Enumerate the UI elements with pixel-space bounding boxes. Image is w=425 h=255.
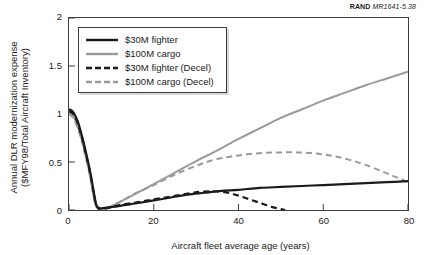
x-tick-label: 0	[53, 216, 83, 226]
x-tick-label: 20	[138, 216, 168, 226]
x-tick-label: 40	[224, 216, 254, 226]
y-tick-label: 0.5	[36, 158, 62, 168]
series-line	[69, 111, 285, 210]
legend-swatch-icon	[86, 35, 118, 45]
y-tick-label: 0	[36, 206, 62, 216]
legend-item[interactable]: $100M cargo	[79, 47, 226, 61]
y-tick-label: 2	[36, 12, 62, 22]
series-line	[69, 109, 408, 208]
legend-swatch-icon	[86, 49, 118, 59]
legend-swatch-icon	[86, 77, 118, 87]
y-axis-title-line2: ($MFY98/Total Aircraft Inventory)	[19, 48, 31, 187]
y-tick-label: 1.5	[36, 61, 62, 71]
legend-item[interactable]: $30M fighter	[79, 33, 226, 47]
x-tick-label: 80	[394, 216, 424, 226]
rand-brand-label: RAND	[350, 3, 371, 10]
y-tick-label: 1	[36, 109, 62, 119]
y-axis-title: Annual DLR modernization expense ($MFY98…	[2, 10, 36, 225]
legend: $30M fighter$100M cargo$30M fighter (Dec…	[78, 27, 227, 93]
figure-reference-label: MR1641-5.38	[372, 3, 416, 10]
x-axis-title: Aircraft fleet average age (years)	[64, 240, 417, 251]
figure-container: RAND MR1641-5.38 Annual DLR modernizatio…	[0, 0, 425, 255]
legend-item[interactable]: $30M fighter (Decel)	[79, 61, 226, 75]
source-credit: RAND MR1641-5.38	[350, 3, 416, 10]
y-axis-title-line1: Annual DLR modernization expense	[8, 41, 20, 193]
x-tick-label: 60	[309, 216, 339, 226]
legend-swatch-icon	[86, 63, 118, 73]
legend-label: $100M cargo	[125, 49, 180, 59]
legend-label: $100M cargo (Decel)	[125, 77, 214, 87]
legend-label: $30M fighter (Decel)	[125, 63, 211, 73]
legend-label: $30M fighter	[125, 35, 178, 45]
legend-item[interactable]: $100M cargo (Decel)	[79, 75, 226, 89]
